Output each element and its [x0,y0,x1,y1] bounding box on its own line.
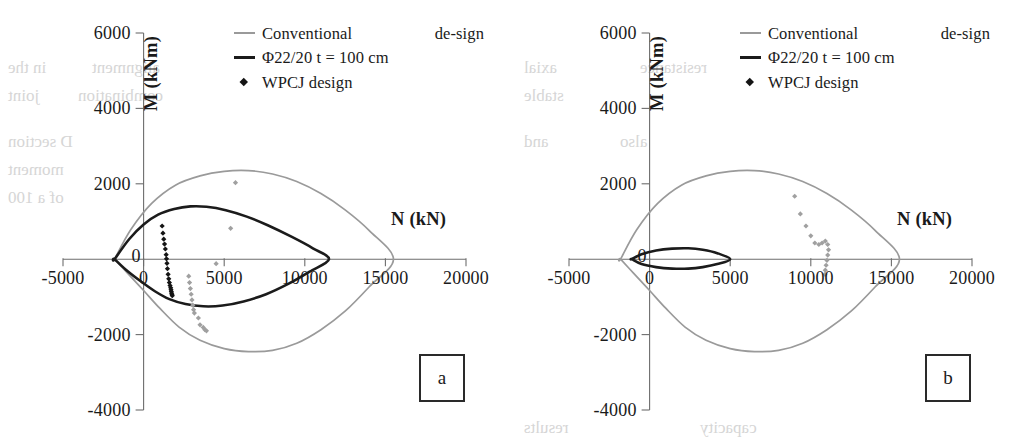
x-tick-label: 5000 [712,268,749,289]
y-axis-title: M (kNm) [647,36,668,111]
x-tick-label: 10000 [282,268,328,289]
series-marker [826,247,831,252]
series-marker [824,263,829,268]
y-tick-label: 2000 [600,173,637,194]
x-tick-label: 15000 [868,268,914,289]
y-tick-label: -4000 [88,400,131,421]
diamond-marker-key-icon [232,71,262,93]
x-tick-label: 15000 [362,268,408,289]
legend-item-wpcj-design: WPCJ design [232,71,484,94]
legend-item-conventional-design: Conventional de-sign [232,22,484,45]
series-marker [825,252,830,257]
y-tick-label: 2000 [94,173,131,194]
legend-label-conventional-design: Conventional de-sign [262,22,484,45]
panel-tag-label: b [943,367,953,389]
series-marker [161,237,166,242]
chart-panel-b: M (kNm) N (kN) Conventional de-sign Φ22/… [506,0,1012,444]
x-tick-label: -5000 [42,268,85,289]
series-marker [233,180,238,185]
x-axis-title: N (kN) [391,209,446,230]
panel-tag-label: a [438,367,446,389]
legend-item-phi-design: Φ22/20 t = 100 cm [232,46,484,69]
series-marker [186,274,191,279]
y-origin-label: 0 [637,246,646,267]
series-marker [189,292,194,297]
series-marker [162,242,167,247]
legend-label-wpcj-design: WPCJ design [768,71,990,94]
y-tick-label: 6000 [600,23,637,44]
series-marker [798,211,803,216]
black-line-key-icon [232,46,262,68]
legend-a: Conventional de-sign Φ22/20 t = 100 cm W… [232,22,484,95]
series-marker [166,272,171,277]
figure-row: M (kNm) N (kN) Conventional de-sign Φ22/… [0,0,1012,444]
y-tick-label: 4000 [94,98,131,119]
gray-line-key-icon [232,22,262,44]
legend-b: Conventional de-sign Φ22/20 t = 100 cm W… [738,22,990,95]
series-marker [188,286,193,291]
x-tick-label: 10000 [788,268,834,289]
series-marker [824,258,829,263]
y-tick-label: -2000 [88,324,131,345]
x-tick-label: 5000 [206,268,243,289]
y-tick-label: -2000 [594,324,637,345]
series-marker [165,266,170,271]
series-line [619,170,900,351]
legend-label-phi-design: Φ22/20 t = 100 cm [768,46,990,69]
series-marker [196,315,201,320]
y-origin-label: 0 [131,246,140,267]
series-marker [808,233,813,238]
x-axis-title: N (kN) [897,209,952,230]
series-marker [160,223,165,228]
gray-line-key-icon [738,22,768,44]
x-tick-label: 0 [645,268,654,289]
series-marker [160,231,165,236]
y-tick-label: 6000 [94,23,131,44]
legend-item-phi-design: Φ22/20 t = 100 cm [738,46,990,69]
x-tick-label: 20000 [949,268,995,289]
x-tick-label: 0 [139,268,148,289]
y-tick-label: -4000 [594,400,637,421]
series-marker [164,252,169,257]
y-tick-label: 4000 [600,98,637,119]
legend-label-conventional-design: Conventional de-sign [768,22,990,45]
series-marker [187,280,192,285]
series-marker [190,303,195,308]
series-marker [189,297,194,302]
diamond-marker-key-icon [738,71,768,93]
series-marker [214,261,219,266]
panel-tag-a: a [419,354,465,402]
y-axis-title: M (kNm) [141,36,162,111]
legend-item-wpcj-design: WPCJ design [738,71,990,94]
series-marker [164,256,169,261]
legend-label-phi-design: Φ22/20 t = 100 cm [262,46,484,69]
chart-panel-a: M (kNm) N (kN) Conventional de-sign Φ22/… [0,0,506,444]
series-marker [164,261,169,266]
legend-item-conventional-design: Conventional de-sign [738,22,990,45]
series-marker [803,223,808,228]
black-line-key-icon [738,46,768,68]
series-marker [228,226,233,231]
series-marker [163,246,168,251]
series-line [113,170,394,351]
x-tick-label: -5000 [548,268,591,289]
x-tick-label: 20000 [443,268,489,289]
panel-tag-b: b [925,354,971,402]
legend-label-wpcj-design: WPCJ design [262,71,484,94]
series-marker [792,194,797,199]
